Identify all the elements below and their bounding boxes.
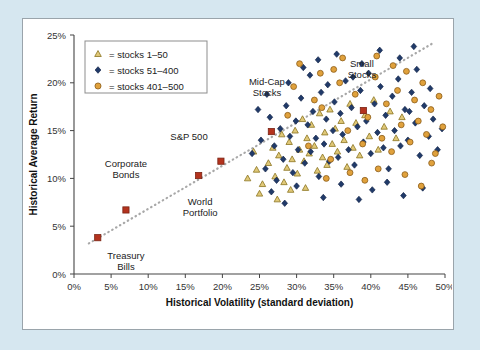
data-point	[306, 143, 312, 149]
data-point	[255, 106, 261, 112]
data-point	[381, 145, 387, 151]
data-point	[440, 124, 446, 130]
data-point	[327, 106, 333, 112]
data-point	[356, 152, 362, 158]
data-point	[259, 181, 265, 187]
data-point	[318, 89, 324, 95]
data-point	[389, 149, 395, 155]
data-point	[395, 88, 401, 94]
data-point	[322, 129, 328, 135]
chart-panel: 0%5%10%15%20%25%30%35%40%45%50%0%5%10%15…	[22, 18, 454, 330]
x-tick-label: 20%	[213, 281, 233, 292]
data-point	[325, 82, 331, 88]
x-tick-label: 45%	[398, 281, 418, 292]
data-point	[427, 85, 433, 91]
data-point	[338, 110, 344, 116]
benchmark-label: Small	[350, 58, 374, 69]
data-point	[345, 128, 351, 134]
data-point	[369, 187, 375, 193]
data-point	[407, 139, 413, 145]
y-tick-label: 15%	[47, 125, 67, 136]
y-axis-title: Historical Average Return	[28, 93, 39, 215]
data-point	[429, 160, 435, 166]
data-point	[284, 165, 290, 171]
x-tick-label: 0%	[67, 281, 81, 292]
benchmark-marker	[95, 235, 101, 241]
data-point	[337, 80, 343, 86]
data-point	[398, 122, 404, 128]
data-point	[315, 57, 321, 63]
data-point	[393, 135, 399, 141]
data-point	[304, 135, 310, 141]
benchmark-label: Stocks	[348, 69, 377, 80]
legend-label: = stocks 401–500	[109, 81, 184, 92]
data-point	[344, 164, 350, 170]
data-point	[332, 99, 338, 105]
x-tick-label: 10%	[139, 281, 159, 292]
data-point	[409, 89, 415, 95]
data-point	[366, 133, 372, 139]
data-point	[269, 189, 275, 195]
data-point	[341, 137, 347, 143]
data-point	[281, 179, 287, 185]
data-point	[338, 181, 344, 187]
data-point	[424, 131, 430, 137]
data-point	[412, 97, 418, 103]
data-point	[287, 187, 293, 193]
data-point	[352, 91, 358, 97]
data-point	[401, 192, 407, 198]
x-tick-label: 50%	[435, 281, 452, 292]
data-point	[436, 93, 442, 99]
data-point	[317, 70, 323, 76]
data-point	[397, 55, 403, 61]
data-point	[253, 166, 259, 172]
x-tick-label: 40%	[361, 281, 381, 292]
data-point	[403, 68, 409, 74]
data-point	[383, 101, 389, 107]
benchmark-label: Stocks	[253, 87, 282, 98]
data-point	[285, 112, 291, 118]
data-point	[267, 114, 273, 120]
data-point	[286, 80, 292, 86]
data-point	[289, 156, 295, 162]
benchmark-marker	[196, 172, 202, 178]
data-point	[390, 93, 396, 99]
data-point	[283, 103, 289, 109]
benchmark-marker	[360, 107, 366, 113]
data-point	[293, 118, 299, 124]
data-point	[244, 175, 250, 181]
data-point	[311, 143, 317, 149]
benchmark-label: Treasury	[107, 250, 144, 261]
data-point	[338, 118, 344, 124]
data-point	[320, 194, 326, 200]
data-point	[381, 123, 387, 129]
data-point	[323, 116, 329, 122]
data-point	[334, 51, 340, 57]
data-point	[294, 183, 300, 189]
data-point	[292, 127, 298, 133]
data-point	[346, 147, 352, 153]
benchmark-label: S&P 500	[170, 131, 207, 142]
data-point	[328, 156, 334, 162]
data-point	[362, 177, 368, 183]
benchmark-marker	[123, 207, 129, 213]
data-point	[311, 97, 317, 103]
data-point	[316, 173, 322, 179]
data-point	[417, 152, 423, 158]
data-point	[286, 139, 292, 145]
x-tick-label: 35%	[324, 281, 344, 292]
figure-container: 0%5%10%15%20%25%30%35%40%45%50%0%5%10%15…	[0, 0, 480, 350]
data-point	[365, 114, 371, 120]
y-tick-label: 20%	[47, 77, 67, 88]
data-point	[360, 141, 366, 147]
data-point	[421, 103, 427, 109]
data-point	[375, 129, 381, 135]
benchmark-label: Bonds	[112, 169, 139, 180]
benchmark-label: World	[188, 196, 213, 207]
data-point	[331, 66, 337, 72]
legend-marker	[95, 83, 101, 89]
data-point	[368, 150, 374, 156]
data-point	[287, 133, 293, 139]
data-point	[276, 152, 282, 158]
y-tick-label: 25%	[47, 30, 67, 41]
